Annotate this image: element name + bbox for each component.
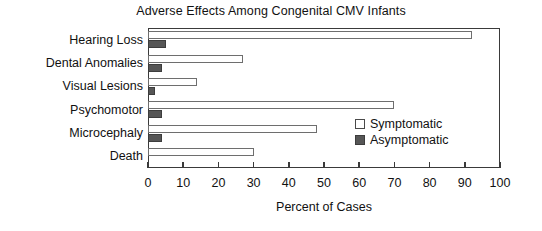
- x-axis-title: Percent of Cases: [148, 200, 500, 214]
- legend-label: Symptomatic: [370, 118, 442, 131]
- x-tick-label: 30: [247, 176, 261, 190]
- legend-entry: Asymptomatic: [355, 134, 485, 147]
- category-label: Psychomotor: [0, 103, 143, 117]
- x-tick-label: 50: [317, 176, 331, 190]
- x-tick-label: 40: [282, 176, 296, 190]
- category-axis-labels: Hearing LossDental AnomaliesVisual Lesio…: [0, 28, 143, 168]
- bar-symptomatic: [148, 31, 472, 39]
- chart-title: Adverse Effects Among Congenital CMV Inf…: [0, 4, 542, 18]
- bar-asymptomatic: [148, 40, 166, 48]
- x-tick-label: 80: [423, 176, 437, 190]
- legend-swatch-symptomatic-icon: [355, 119, 365, 129]
- bar-symptomatic: [148, 101, 394, 109]
- category-label: Dental Anomalies: [0, 56, 143, 70]
- category-label: Microcephaly: [0, 126, 143, 140]
- x-tick-label: 0: [145, 176, 152, 190]
- x-tick-label: 20: [211, 176, 225, 190]
- bar-asymptomatic: [148, 134, 162, 142]
- category-label: Hearing Loss: [0, 33, 143, 47]
- bar-asymptomatic: [148, 110, 162, 118]
- x-tick-label: 10: [176, 176, 190, 190]
- x-tick-mark: [182, 162, 184, 168]
- x-tick-mark: [394, 162, 396, 168]
- x-tick-mark: [288, 162, 290, 168]
- bar-symptomatic: [148, 55, 243, 63]
- x-tick-mark: [358, 162, 360, 168]
- x-tick-label: 60: [352, 176, 366, 190]
- category-label: Visual Lesions: [0, 79, 143, 93]
- legend-swatch-asymptomatic-icon: [355, 135, 365, 145]
- category-label: Death: [0, 149, 143, 163]
- x-tick-mark: [147, 162, 149, 168]
- chart-figure: Adverse Effects Among Congenital CMV Inf…: [0, 0, 542, 231]
- x-tick-mark: [218, 162, 220, 168]
- bar-symptomatic: [148, 78, 197, 86]
- bar-asymptomatic: [148, 87, 155, 95]
- x-tick-mark: [429, 162, 431, 168]
- legend-entry: Symptomatic: [355, 118, 485, 131]
- x-tick-label: 100: [490, 176, 511, 190]
- x-tick-label: 70: [387, 176, 401, 190]
- x-tick-mark: [323, 162, 325, 168]
- x-tick-mark: [499, 162, 501, 168]
- chart-legend: SymptomaticAsymptomatic: [355, 118, 485, 149]
- x-tick-mark: [253, 162, 255, 168]
- bar-asymptomatic: [148, 64, 162, 72]
- legend-label: Asymptomatic: [370, 134, 449, 147]
- bar-symptomatic: [148, 125, 317, 133]
- bar-symptomatic: [148, 148, 254, 156]
- x-tick-label: 90: [458, 176, 472, 190]
- x-tick-mark: [464, 162, 466, 168]
